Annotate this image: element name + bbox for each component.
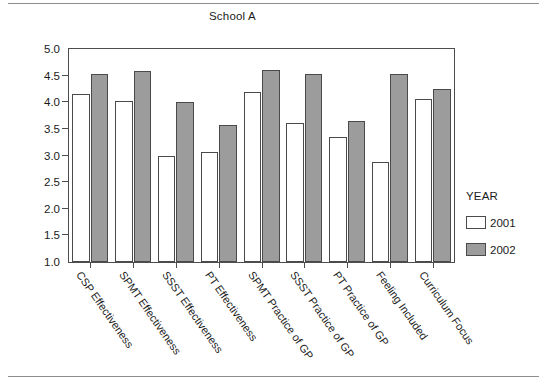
bar-2001-pt-practice-of-gp[interactable] (329, 137, 347, 262)
x-axis-tick-mark (133, 263, 134, 268)
bars-layer (69, 49, 454, 262)
legend-item-2002[interactable]: 2002 (466, 243, 546, 256)
bar-2002-spmt-practice-of-gp[interactable] (262, 70, 280, 262)
legend-swatch-2002 (466, 243, 486, 256)
y-axis-tick-label: 2.0 (20, 201, 60, 217)
x-axis-tick-mark (90, 263, 91, 268)
x-axis-category-labels: CSP EffectivenessSPMT EffectivenessSSST … (69, 269, 539, 379)
bar-2002-ssst-practice-of-gp[interactable] (305, 74, 323, 262)
x-axis-tick-mark (433, 263, 434, 268)
legend-item-2001[interactable]: 2001 (466, 216, 546, 229)
x-axis-tick-mark (176, 263, 177, 268)
y-axis-tick-label: 3.5 (20, 121, 60, 137)
bar-2001-feeling-included[interactable] (372, 162, 390, 262)
chart-title: School A (0, 10, 465, 22)
top-divider-rule (8, 3, 539, 4)
bar-2002-feeling-included[interactable] (390, 74, 408, 262)
y-axis-tick-label: 1.0 (20, 254, 60, 270)
bar-2002-spmt-effectiveness[interactable] (134, 71, 152, 262)
bar-2002-curriculum-focus[interactable] (433, 89, 451, 262)
y-axis-tick-label: 2.5 (20, 174, 60, 190)
bar-2001-ssst-effectiveness[interactable] (158, 156, 176, 263)
y-axis-tick-label: 3.0 (20, 148, 60, 164)
bar-2002-pt-effectiveness[interactable] (219, 125, 237, 262)
y-axis-tick-label: 1.5 (20, 227, 60, 243)
bar-2001-spmt-practice-of-gp[interactable] (244, 92, 262, 262)
figure-canvas: School A 5.04.54.03.53.02.52.01.51.0 CSP… (0, 0, 547, 392)
y-axis-tick-label: 5.0 (20, 41, 60, 57)
bar-2001-curriculum-focus[interactable] (415, 99, 433, 262)
bar-2002-ssst-effectiveness[interactable] (176, 102, 194, 262)
x-axis-tick-mark (390, 263, 391, 268)
x-axis-tick-mark (347, 263, 348, 268)
legend-label-2002: 2002 (490, 244, 516, 256)
x-axis-tick-mark (219, 263, 220, 268)
x-axis-tick-mark (304, 263, 305, 268)
y-axis-tick-label: 4.0 (20, 94, 60, 110)
bar-2002-pt-practice-of-gp[interactable] (348, 121, 366, 262)
bar-2001-pt-effectiveness[interactable] (201, 152, 219, 262)
bar-2002-csp-effectiveness[interactable] (91, 74, 109, 263)
bar-2001-spmt-effectiveness[interactable] (115, 101, 133, 262)
bar-2001-ssst-practice-of-gp[interactable] (286, 123, 304, 262)
legend-title: YEAR (466, 190, 546, 202)
y-axis-tick-labels: 5.04.54.03.53.02.52.01.51.0 (20, 40, 60, 271)
x-axis-tick-mark (262, 263, 263, 268)
bar-2001-csp-effectiveness[interactable] (72, 94, 90, 262)
legend-label-2001: 2001 (490, 217, 516, 229)
legend-swatch-2001 (466, 216, 486, 229)
legend: YEAR 2001 2002 (466, 190, 546, 270)
y-axis-tick-label: 4.5 (20, 68, 60, 84)
